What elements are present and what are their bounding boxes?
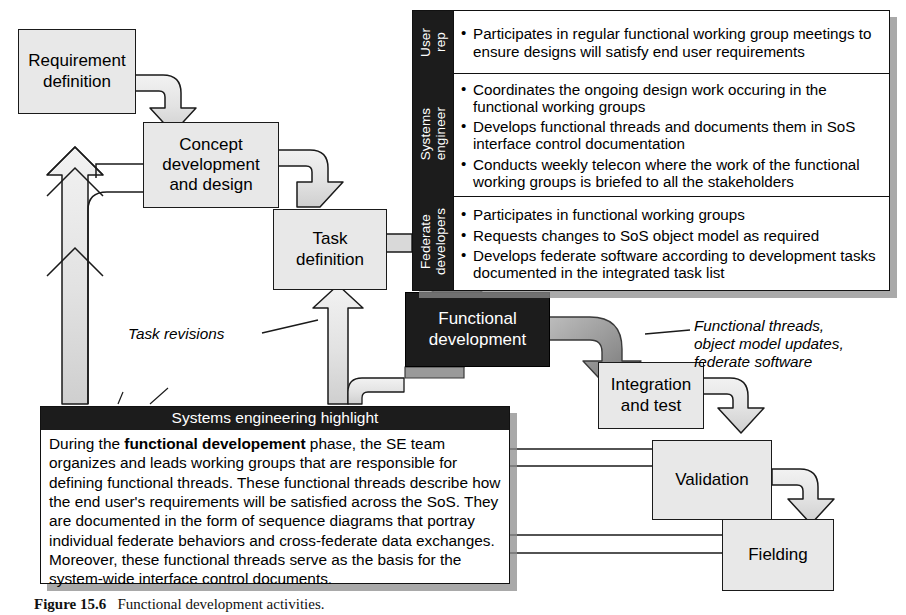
role-label-federate-developers: Federate developers bbox=[413, 194, 453, 290]
role-bullets-column: Participates in regular functional worki… bbox=[453, 11, 889, 290]
arrow-long-feedback-to-requirement bbox=[47, 147, 103, 404]
figure-caption-text: Functional development activities. bbox=[117, 596, 324, 612]
arrow-validation-to-fielding bbox=[772, 469, 834, 524]
se-highlight-title: Systems engineering highlight bbox=[41, 407, 509, 430]
box-fielding[interactable]: Fielding bbox=[722, 519, 834, 591]
box-fielding-label: Fielding bbox=[748, 545, 808, 565]
callout-task-revisions-text: Task revisions bbox=[128, 325, 224, 342]
box-functional-development[interactable]: Functional development bbox=[405, 292, 550, 367]
list-item: Develops federate software according to … bbox=[460, 247, 881, 282]
se-highlight-leader-ticks bbox=[118, 388, 168, 404]
list-item: Participates in functional working group… bbox=[460, 206, 881, 223]
box-task-definition-label: Task definition bbox=[296, 229, 364, 269]
box-concept-development-and-design-label: Concept development and design bbox=[162, 135, 259, 195]
list-item: Conducts weekly telecon where the work o… bbox=[460, 156, 881, 191]
connector-concept-feedback-loop bbox=[88, 164, 143, 404]
arrow-task-revisions bbox=[313, 285, 404, 404]
role-responsibility-table: User rep Systems engineer Federate devel… bbox=[412, 10, 890, 291]
arrow-concept-to-task bbox=[277, 150, 343, 207]
figure-caption: Figure 15.6 Functional development activ… bbox=[34, 596, 325, 613]
box-integration-and-test-label: Integration and test bbox=[611, 375, 691, 415]
box-integration-and-test[interactable]: Integration and test bbox=[598, 362, 704, 429]
callout-functional-threads-outputs-text: Functional threads, object model updates… bbox=[694, 317, 844, 370]
list-item: Participates in regular functional worki… bbox=[460, 25, 881, 60]
arrow-integration-to-validation bbox=[702, 378, 764, 433]
se-highlight-body: During the functional developement phase… bbox=[41, 430, 509, 593]
box-validation[interactable]: Validation bbox=[652, 440, 772, 520]
role-label-federate-developers-text: Federate developers bbox=[418, 208, 448, 275]
role-label-column: User rep Systems engineer Federate devel… bbox=[413, 11, 453, 290]
list-item: Develops functional threads and document… bbox=[460, 118, 881, 153]
box-functional-development-label: Functional development bbox=[429, 309, 526, 349]
role-bullets-user-rep: Participates in regular functional worki… bbox=[453, 11, 889, 74]
figure-canvas: Requirement definition Concept developme… bbox=[0, 0, 906, 615]
se-highlight-text-before: During the bbox=[49, 435, 124, 452]
callout-task-revisions: Task revisions bbox=[128, 325, 224, 343]
role-bullets-federate-developers: Participates in functional working group… bbox=[453, 197, 889, 290]
systems-engineering-highlight-panel: Systems engineering highlight During the… bbox=[40, 406, 510, 584]
box-concept-development-and-design[interactable]: Concept development and design bbox=[143, 122, 279, 208]
se-highlight-bold-phrase: functional developement bbox=[124, 435, 305, 452]
role-label-systems-engineer-text: Systems engineer bbox=[418, 107, 448, 160]
list-item: Coordinates the ongoing design work occu… bbox=[460, 81, 881, 116]
list-item: Requests changes to SoS object model as … bbox=[460, 227, 881, 244]
callout-functional-threads-outputs: Functional threads, object model updates… bbox=[694, 317, 844, 371]
se-highlight-text-after: phase, the SE team organizes and leads w… bbox=[49, 435, 500, 587]
box-task-definition[interactable]: Task definition bbox=[273, 209, 387, 290]
role-label-user-rep-text: User rep bbox=[418, 28, 448, 57]
figure-caption-label: Figure 15.6 bbox=[34, 596, 106, 612]
connector-task-to-federate bbox=[386, 234, 412, 252]
box-validation-label: Validation bbox=[675, 470, 748, 490]
role-bullets-systems-engineer: Coordinates the ongoing design work occu… bbox=[453, 74, 889, 197]
box-requirement-definition[interactable]: Requirement definition bbox=[18, 29, 136, 114]
role-label-user-rep: User rep bbox=[413, 11, 453, 74]
role-label-systems-engineer: Systems engineer bbox=[413, 74, 453, 194]
box-requirement-definition-label: Requirement definition bbox=[28, 51, 125, 91]
